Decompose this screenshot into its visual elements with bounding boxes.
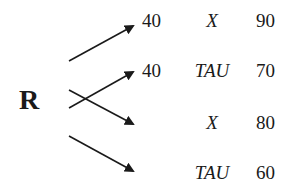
root-node-label: R — [19, 86, 39, 114]
arrow-to-row-4 — [69, 136, 133, 171]
row-3-symbol: X — [180, 113, 244, 133]
row-4-symbol: TAU — [180, 163, 244, 183]
arrow-to-row-1 — [69, 26, 133, 61]
row-2-symbol: TAU — [180, 61, 244, 81]
arrow-to-row-2 — [69, 72, 133, 108]
row-4-value: 60 — [256, 163, 275, 183]
row-2-value: 70 — [256, 61, 275, 81]
row-3-value: 80 — [256, 113, 275, 133]
row-1-first-value: 40 — [142, 11, 161, 31]
arrow-to-row-3 — [69, 90, 133, 124]
row-1-symbol: X — [180, 11, 244, 31]
row-1-value: 90 — [256, 11, 275, 31]
row-2-first-value: 40 — [142, 61, 161, 81]
